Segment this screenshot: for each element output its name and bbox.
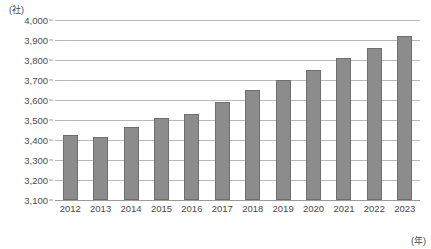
x-axis-tick-label: 2016 — [181, 203, 202, 214]
x-axis-tick-label: 2014 — [120, 203, 141, 214]
bar — [245, 90, 260, 200]
y-axis-tick-mark — [49, 20, 53, 21]
x-axis-tick-label: 2019 — [273, 203, 294, 214]
gridline — [55, 120, 420, 121]
y-axis-tick-mark — [49, 160, 53, 161]
x-axis-tick-label: 2020 — [303, 203, 324, 214]
bar — [63, 135, 78, 200]
y-axis-tick-label: 3,600 — [24, 95, 48, 106]
y-axis-tick-label: 3,200 — [24, 175, 48, 186]
x-axis-tick-label: 2022 — [364, 203, 385, 214]
x-axis-unit-label: (年) — [411, 234, 426, 247]
y-axis-tick-mark — [49, 100, 53, 101]
y-axis-tick-label: 3,900 — [24, 35, 48, 46]
x-axis-tick-labels: 2012201320142015201620172018201920202021… — [55, 203, 420, 221]
gridline — [55, 180, 420, 181]
y-axis-tick-label: 3,400 — [24, 135, 48, 146]
y-axis-unit-label: (社) — [9, 3, 24, 16]
gridline — [55, 100, 420, 101]
y-axis-tick-mark — [49, 40, 53, 41]
bar — [397, 36, 412, 200]
y-axis-tick-mark — [49, 140, 53, 141]
gridline — [55, 20, 420, 21]
x-axis-tick-label: 2018 — [242, 203, 263, 214]
y-axis-tick-labels: 4,0003,9003,8003,7003,6003,5003,4003,300… — [0, 20, 48, 200]
x-axis-tick-label: 2015 — [151, 203, 172, 214]
gridline — [55, 200, 420, 201]
bar — [276, 80, 291, 200]
bar — [367, 48, 382, 200]
x-axis-tick-label: 2017 — [212, 203, 233, 214]
bar — [306, 70, 321, 200]
y-axis-tick-label: 3,700 — [24, 75, 48, 86]
gridline — [55, 40, 420, 41]
y-axis-tick-label: 3,800 — [24, 55, 48, 66]
x-axis-tick-label: 2023 — [394, 203, 415, 214]
x-axis-tick-label: 2013 — [90, 203, 111, 214]
y-axis-tick-label: 3,100 — [24, 195, 48, 206]
bar — [184, 114, 199, 200]
y-axis-tick-mark — [49, 200, 53, 201]
y-axis-tick-mark — [49, 180, 53, 181]
y-axis-tick-label: 3,500 — [24, 115, 48, 126]
gridline — [55, 80, 420, 81]
gridline — [55, 140, 420, 141]
y-axis-tick-mark — [49, 120, 53, 121]
bar — [124, 127, 139, 200]
gridline — [55, 160, 420, 161]
y-axis-tick-mark — [49, 60, 53, 61]
y-axis-tick-label: 4,000 — [24, 15, 48, 26]
y-axis-tick-mark — [49, 80, 53, 81]
y-axis-tick-label: 3,300 — [24, 155, 48, 166]
bar — [93, 137, 108, 200]
bar — [154, 118, 169, 200]
gridline — [55, 60, 420, 61]
bar-chart: (社) 4,0003,9003,8003,7003,6003,5003,4003… — [0, 0, 431, 249]
x-axis-tick-label: 2012 — [60, 203, 81, 214]
bar — [336, 58, 351, 200]
plot-area — [55, 20, 420, 200]
x-axis-tick-label: 2021 — [333, 203, 354, 214]
bar — [215, 102, 230, 200]
